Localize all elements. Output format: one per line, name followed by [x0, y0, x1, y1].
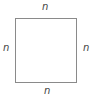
- square-shape: [15, 18, 77, 83]
- left-side-label: n: [3, 43, 9, 53]
- right-side-label: n: [83, 43, 89, 53]
- bottom-side-label: n: [44, 86, 50, 96]
- top-side-label: n: [42, 2, 48, 12]
